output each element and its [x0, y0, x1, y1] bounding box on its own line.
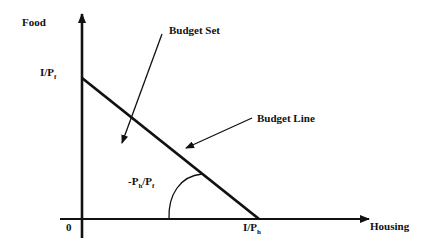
y-intercept-label: I/Pf	[40, 67, 56, 81]
x-axis-label: Housing	[370, 221, 409, 232]
budget-line-label: Budget Line	[257, 113, 315, 124]
x-intercept-label: I/Ph	[243, 222, 261, 236]
slope-mid: /P	[142, 175, 152, 187]
slope-subscript-f: f	[152, 182, 154, 190]
budget-constraint-diagram	[0, 0, 439, 248]
y-intercept-main: I/P	[40, 66, 54, 78]
x-intercept-main: I/P	[243, 221, 257, 233]
slope-prefix: -P	[128, 175, 138, 187]
slope-label: -Ph/Pf	[128, 176, 154, 190]
x-intercept-subscript: h	[257, 228, 261, 236]
slope-angle-arc	[169, 174, 202, 219]
y-axis-label: Food	[22, 17, 46, 28]
budget-line	[82, 78, 259, 219]
budget-line-pointer-arrow	[186, 118, 252, 148]
budget-set-label: Budget Set	[169, 25, 220, 36]
origin-label: 0	[66, 222, 72, 233]
y-intercept-subscript: f	[54, 73, 56, 81]
